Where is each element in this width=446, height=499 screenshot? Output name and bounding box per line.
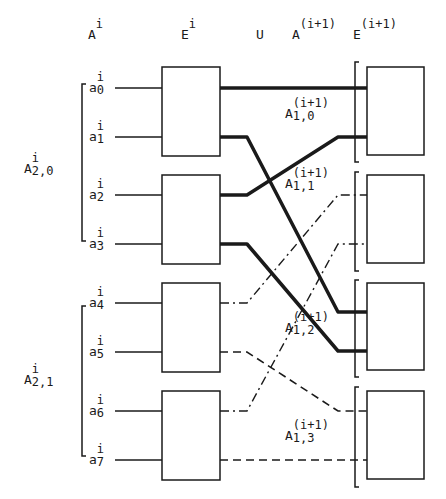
left-box-2 [162,283,220,372]
right-box-0 [367,67,424,155]
bracket-right-group-2 [355,280,359,377]
right-box-1 [367,175,424,263]
input-label-a2: ai2 [89,178,104,204]
input-label-a7: ai7 [89,443,104,469]
header-e-i-plus-1: E(i+1) [353,18,397,41]
left-box-1 [162,175,220,264]
bracket-right-group-1 [355,172,359,271]
input-label-a3: ai3 [89,227,104,253]
header-e-i: Ei [181,18,196,41]
bracket-left-group-0 [82,84,86,241]
right-box-3 [367,391,424,479]
input-label-a5: ai5 [89,335,104,361]
input-label-a4: ai4 [89,286,104,312]
input-label-a1: ai1 [89,120,104,146]
permutation-network-diagram [0,0,446,499]
header-u: U [256,18,264,41]
input-label-a6: ai6 [89,394,104,420]
bracket-left-group-1 [82,306,86,456]
header-a-i-plus-1: A(i+1) [292,18,336,41]
input-wires [115,88,162,460]
input-label-a0: ai0 [89,71,104,97]
group-label-a-1-3: A(i+1)1,3 [285,419,329,445]
left-box-0 [162,67,220,156]
bracket-right-group-3 [355,387,359,487]
left-box-3 [162,391,220,480]
right-box-2 [367,283,424,370]
group-label-a-1-2: A(i+1)1,2 [285,311,329,337]
group-label-a-2-0: Ai2,0 [24,152,54,178]
group-label-a-1-0: A(i+1)1,0 [285,97,329,123]
bracket-right-group-0 [355,62,359,162]
header-a-i: Ai [88,18,103,41]
group-label-a-1-1: A(i+1)1,1 [285,167,329,193]
group-label-a-2-1: Ai2,1 [24,363,54,389]
